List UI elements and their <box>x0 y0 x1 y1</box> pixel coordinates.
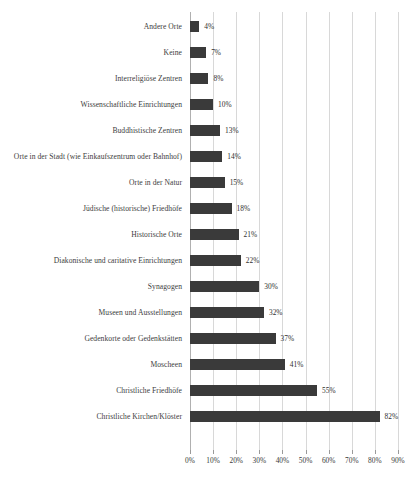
category-label: Keine <box>0 48 182 57</box>
bar-value-label: 18% <box>237 203 251 214</box>
category-label: Synagogen <box>0 282 182 291</box>
x-tick-label: 0% <box>185 456 195 465</box>
bar <box>190 177 225 188</box>
plot-area: 4%7%8%10%13%14%15%18%21%22%30%32%37%41%5… <box>190 12 398 450</box>
x-tick-label: 80% <box>368 456 382 465</box>
bar-value-label: 13% <box>225 125 239 136</box>
x-tick <box>352 450 353 454</box>
x-tick <box>259 450 260 454</box>
x-tick <box>236 450 237 454</box>
bar <box>190 229 239 240</box>
bar-value-label: 55% <box>322 385 336 396</box>
bar <box>190 307 264 318</box>
gridline-90 <box>398 12 399 450</box>
bar <box>190 333 276 344</box>
x-tick-label: 60% <box>322 456 336 465</box>
bar-value-label: 41% <box>290 359 304 370</box>
bar-value-label: 30% <box>264 281 278 292</box>
x-tick-label: 90% <box>391 456 405 465</box>
x-tick-label: 40% <box>276 456 290 465</box>
x-tick <box>213 450 214 454</box>
bar <box>190 281 259 292</box>
x-tick-label: 20% <box>229 456 243 465</box>
x-axis-labels: 0%10%20%30%40%50%60%70%80%90% <box>190 456 398 470</box>
x-tick <box>190 450 191 454</box>
category-label: Jüdische (historische) Friedhöfe <box>0 204 182 213</box>
category-label: Christliche Kirchen/Klöster <box>0 412 182 421</box>
category-label: Buddhistische Zentren <box>0 126 182 135</box>
category-label: Christliche Friedhöfe <box>0 386 182 395</box>
category-label: Moscheen <box>0 360 182 369</box>
bar-value-label: 15% <box>230 177 244 188</box>
bar-value-label: 82% <box>385 411 399 422</box>
bar-chart: Andere OrteKeineInterreligiöse ZentrenWi… <box>0 0 417 480</box>
bar <box>190 21 199 32</box>
gridline-70 <box>352 12 353 450</box>
x-tick-label: 10% <box>206 456 220 465</box>
bar <box>190 203 232 214</box>
x-tick-label: 30% <box>253 456 267 465</box>
bar-value-label: 32% <box>269 307 283 318</box>
bar <box>190 125 220 136</box>
bar <box>190 99 213 110</box>
category-label: Orte in der Natur <box>0 178 182 187</box>
bar <box>190 47 206 58</box>
bar-value-label: 37% <box>281 333 295 344</box>
category-label: Gedenkorte oder Gedenkstätten <box>0 334 182 343</box>
category-label: Diakonische und caritative Einrichtungen <box>0 256 182 265</box>
category-label: Museen und Ausstellungen <box>0 308 182 317</box>
x-tick <box>398 450 399 454</box>
bar-value-label: 8% <box>213 73 223 84</box>
category-label: Andere Orte <box>0 22 182 31</box>
bar <box>190 73 208 84</box>
gridline-80 <box>375 12 376 450</box>
bar-value-label: 10% <box>218 99 232 110</box>
x-tick-label: 70% <box>345 456 359 465</box>
x-axis-ticks <box>190 450 398 455</box>
bar <box>190 255 241 266</box>
bar-value-label: 22% <box>246 255 260 266</box>
x-tick-label: 50% <box>299 456 313 465</box>
bar-value-label: 4% <box>204 21 214 32</box>
x-tick <box>306 450 307 454</box>
x-tick <box>375 450 376 454</box>
category-label: Orte in der Stadt (wie Einkaufszentrum o… <box>0 152 182 161</box>
bar-value-label: 14% <box>227 151 241 162</box>
category-axis-labels: Andere OrteKeineInterreligiöse ZentrenWi… <box>0 0 186 460</box>
category-label: Interreligiöse Zentren <box>0 74 182 83</box>
x-tick <box>282 450 283 454</box>
bar <box>190 151 222 162</box>
bar <box>190 411 380 422</box>
bar-value-label: 7% <box>211 47 221 58</box>
category-label: Historische Orte <box>0 230 182 239</box>
bar <box>190 385 317 396</box>
bar-value-label: 21% <box>244 229 258 240</box>
bar <box>190 359 285 370</box>
x-tick <box>329 450 330 454</box>
category-label: Wissenschaftliche Einrichtungen <box>0 100 182 109</box>
